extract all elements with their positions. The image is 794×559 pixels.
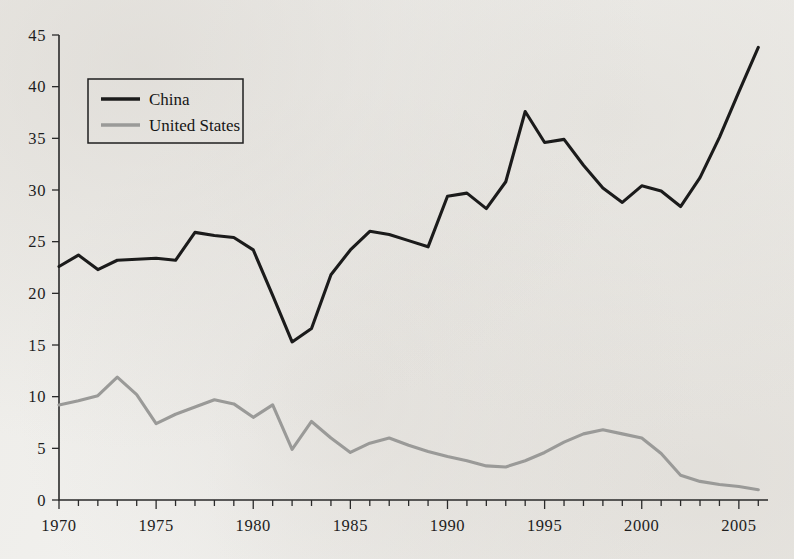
x-axis-tick-label: 1985 (333, 516, 368, 535)
x-axis-tick-label: 1975 (138, 516, 173, 535)
line-chart: 051015202530354045 197019751980198519901… (0, 0, 794, 559)
series-line-united-states (59, 377, 758, 490)
y-axis-tick-label: 0 (37, 491, 46, 510)
y-axis-tick-label: 30 (28, 181, 46, 200)
x-axis-tick-label: 2005 (721, 516, 756, 535)
legend-label-china: China (149, 90, 190, 109)
y-axis-tick-label: 45 (28, 26, 46, 45)
y-axis-tick-label: 25 (28, 232, 46, 251)
x-axis-tick-label: 2000 (624, 516, 659, 535)
data-series (59, 47, 758, 489)
legend-label-united-states: United States (149, 116, 240, 135)
y-axis-tick-label: 35 (28, 129, 46, 148)
y-axis-tick-label: 40 (28, 77, 46, 96)
y-axis-tick-label: 15 (28, 336, 46, 355)
x-axis-tick-label: 1990 (430, 516, 465, 535)
chart-legend: ChinaUnited States (88, 79, 243, 143)
x-axis-tick-label: 1970 (41, 516, 76, 535)
x-axis-tick-labels: 19701975198019851990199520002005 (41, 516, 756, 535)
y-axis-tick-label: 20 (28, 284, 46, 303)
x-axis-tick-label: 1995 (527, 516, 562, 535)
chart-figure: 051015202530354045 197019751980198519901… (0, 0, 794, 559)
y-axis-tick-label: 10 (28, 387, 46, 406)
y-axis-tick-labels: 051015202530354045 (28, 26, 46, 510)
x-axis-tick-label: 1980 (236, 516, 271, 535)
y-axis-tick-label: 5 (37, 439, 46, 458)
